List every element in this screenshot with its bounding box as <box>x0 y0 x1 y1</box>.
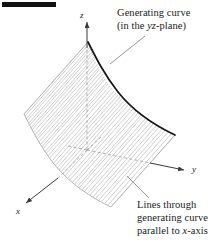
y-axis-visible <box>150 163 184 170</box>
axis-label-y: y <box>192 164 196 175</box>
callout-lines-through-line1: Lines through <box>137 199 208 212</box>
surface-body <box>24 42 175 207</box>
leader-line-lines-through <box>127 176 149 198</box>
axis-label-x: x <box>16 206 20 217</box>
callout-generating-curve-line2-italic: yz <box>147 20 156 31</box>
callout-lines-through: Lines through generating curve parallel … <box>137 199 208 237</box>
cylinder-surface-figure: Generating curve (in the yz-plane) Lines… <box>0 0 214 249</box>
leader-line-generating-curve <box>110 36 145 64</box>
callout-lines-through-line3: parallel to x-axis <box>137 225 208 238</box>
axis-label-z: z <box>80 10 84 21</box>
callout-generating-curve-line2-prefix: (in the <box>117 20 147 31</box>
callout-lines-through-line2: generating curve <box>137 212 208 225</box>
callout-lines-through-line3-prefix: parallel to <box>137 225 183 236</box>
callout-generating-curve: Generating curve (in the yz-plane) <box>117 7 190 33</box>
callout-generating-curve-line2: (in the yz-plane) <box>117 20 190 33</box>
x-axis-visible <box>26 178 58 203</box>
callout-generating-curve-line1: Generating curve <box>117 7 190 20</box>
callout-generating-curve-line2-suffix: -plane) <box>156 20 186 31</box>
callout-lines-through-line3-suffix: -axis <box>187 225 208 236</box>
